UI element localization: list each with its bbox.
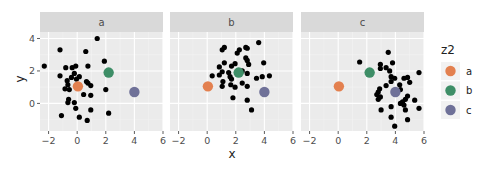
data-point <box>256 40 261 45</box>
group-mean-point-b <box>364 67 374 77</box>
facet-strip-label: a <box>98 17 104 28</box>
data-point <box>65 100 70 105</box>
data-point <box>73 63 78 68</box>
legend-item-b: b <box>441 82 472 100</box>
data-point <box>72 100 77 105</box>
data-point <box>245 84 250 89</box>
facet-panels: a−20246b−20246c−20246 <box>40 12 427 146</box>
group-mean-point-a <box>334 81 344 91</box>
legend-item-c: c <box>441 101 472 119</box>
data-point <box>357 59 362 64</box>
legend-key-swatch <box>445 66 455 76</box>
data-point <box>412 98 417 103</box>
data-point <box>42 63 47 68</box>
legend-label: a <box>466 66 472 77</box>
data-point <box>83 49 88 54</box>
data-point <box>245 98 250 103</box>
facet-panel-a: a−20246 <box>40 12 166 146</box>
data-point <box>405 117 410 122</box>
data-point <box>85 63 90 68</box>
data-point <box>88 83 93 88</box>
group-mean-point-b <box>103 67 113 77</box>
data-point <box>232 85 237 90</box>
data-point <box>389 104 394 109</box>
data-point <box>390 60 395 65</box>
data-point <box>72 71 77 76</box>
data-point <box>240 81 245 86</box>
data-point <box>235 50 240 55</box>
data-point <box>261 60 266 65</box>
data-point <box>59 113 64 118</box>
x-tick-label: 6 <box>421 135 427 146</box>
y-axis: 024 <box>29 33 40 109</box>
data-point <box>232 61 237 66</box>
group-mean-point-c <box>390 87 400 97</box>
data-point <box>95 36 100 41</box>
panel-background <box>301 32 424 131</box>
data-point <box>63 65 68 70</box>
y-tick-label: 4 <box>29 33 35 44</box>
legend-label: b <box>466 85 472 96</box>
data-point <box>65 82 70 87</box>
x-tick-label: 6 <box>160 135 166 146</box>
data-point <box>217 72 222 77</box>
data-point <box>387 68 392 73</box>
group-mean-point-a <box>73 81 83 91</box>
data-point <box>85 118 90 123</box>
x-tick-label: −2 <box>172 135 186 146</box>
data-point <box>217 64 222 69</box>
facet-panel-b: b−20246 <box>170 12 296 146</box>
data-point <box>57 47 62 52</box>
data-point <box>389 115 394 120</box>
legend-key-swatch <box>445 85 455 95</box>
data-point <box>57 73 62 78</box>
x-axis-title: x <box>228 147 235 161</box>
data-point <box>106 111 111 116</box>
x-tick-label: 4 <box>131 135 137 146</box>
facet-panel-c: c−20246 <box>301 12 427 146</box>
x-tick-label: 4 <box>261 135 267 146</box>
data-point <box>103 87 108 92</box>
data-point <box>220 47 225 52</box>
data-point <box>401 102 406 107</box>
data-point <box>210 73 215 78</box>
data-point <box>376 97 381 102</box>
data-point <box>378 66 383 71</box>
data-point <box>245 46 250 51</box>
data-point <box>254 76 259 81</box>
group-mean-point-b <box>233 67 243 77</box>
data-point <box>416 106 421 111</box>
data-point <box>220 79 225 84</box>
x-tick-label: 2 <box>103 135 109 146</box>
faceted-scatter-chart: a−20246b−20246c−20246 024 y x z2 abc <box>0 0 501 171</box>
x-tick-label: 0 <box>335 135 341 146</box>
data-point <box>222 60 227 65</box>
x-tick-label: 0 <box>204 135 210 146</box>
data-point <box>229 76 234 81</box>
data-point <box>81 92 86 97</box>
x-tick-label: −2 <box>303 135 317 146</box>
data-point <box>230 95 235 100</box>
data-point <box>88 93 93 98</box>
y-tick-label: 0 <box>29 98 35 109</box>
data-point <box>389 79 394 84</box>
legend-keys: abc <box>441 62 472 119</box>
data-point <box>73 106 78 111</box>
data-point <box>220 84 225 89</box>
legend-label: c <box>466 105 472 116</box>
data-point <box>386 50 391 55</box>
x-tick-label: 2 <box>364 135 370 146</box>
legend: z2 abc <box>441 43 472 119</box>
data-point <box>77 115 82 120</box>
data-point <box>405 75 410 80</box>
data-point <box>392 124 397 129</box>
y-tick-label: 2 <box>29 65 35 76</box>
group-mean-point-c <box>129 87 139 97</box>
data-point <box>246 62 251 67</box>
facet-strip-label: b <box>228 17 234 28</box>
data-point <box>245 71 250 76</box>
y-axis-title: y <box>13 75 27 82</box>
data-point <box>397 82 402 87</box>
x-tick-label: 0 <box>74 135 80 146</box>
legend-title: z2 <box>441 43 455 57</box>
